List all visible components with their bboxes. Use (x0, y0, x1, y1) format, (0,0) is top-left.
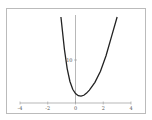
plot-frame (7, 9, 146, 114)
chart: -4-202410 (0, 0, 152, 120)
x-tick-label: 4 (129, 105, 132, 111)
x-tick-label: -2 (45, 105, 50, 111)
x-tick-label: -4 (18, 105, 23, 111)
x-tick-label: 0 (74, 105, 77, 111)
x-tick-label: 2 (102, 105, 105, 111)
y-tick-label: 10 (66, 57, 72, 63)
